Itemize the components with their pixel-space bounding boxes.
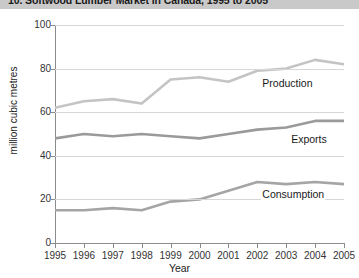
x-tick-label: 1997 (102, 250, 124, 261)
x-tick-mark (257, 244, 258, 248)
x-tick-mark (55, 244, 56, 248)
x-tick-label: 1999 (159, 250, 181, 261)
y-tick-label: 100 (6, 19, 51, 30)
x-tick-label: 1998 (131, 250, 153, 261)
x-tick-label: 2005 (333, 250, 355, 261)
x-tick-mark (228, 244, 229, 248)
x-tick-mark (315, 244, 316, 248)
gridline (55, 112, 344, 113)
x-tick-mark (171, 244, 172, 248)
x-tick-mark (286, 244, 287, 248)
series-label-exports: Exports (290, 133, 328, 145)
x-tick-mark (344, 244, 345, 248)
x-tick-mark (84, 244, 85, 248)
x-tick-mark (142, 244, 143, 248)
x-tick-label: 2001 (217, 250, 239, 261)
y-tick-label: 0 (6, 237, 51, 248)
gridline (55, 69, 344, 70)
gridline (55, 156, 344, 157)
x-axis-title: Year (0, 262, 359, 274)
x-tick-label: 1995 (44, 250, 66, 261)
x-tick-mark (113, 244, 114, 248)
chart-figure: 10. Softwood Lumber Market in Canada, 19… (0, 0, 359, 278)
series-label-consumption: Consumption (261, 188, 325, 200)
plot-area: Production Exports Consumption (55, 25, 344, 243)
x-tick-label: 2004 (304, 250, 326, 261)
y-tick-label: 20 (6, 193, 51, 204)
x-tick-label: 2002 (246, 250, 268, 261)
x-tick-mark (200, 244, 201, 248)
chart-title-bar: 10. Softwood Lumber Market in Canada, 19… (0, 0, 359, 9)
y-axis-title: million cubic metres (8, 46, 19, 176)
title-divider (0, 9, 359, 13)
x-tick-label: 2000 (188, 250, 210, 261)
gridline (55, 25, 344, 26)
series-label-production: Production (261, 77, 313, 89)
x-tick-label: 1996 (73, 250, 95, 261)
x-tick-label: 2003 (275, 250, 297, 261)
